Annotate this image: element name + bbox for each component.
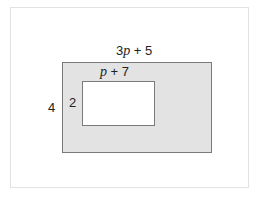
inner-width-label: p + 7 <box>100 65 129 79</box>
inner-height-label: 2 <box>69 96 76 110</box>
outer-height-label: 4 <box>48 101 55 115</box>
inner-rectangle <box>82 81 155 126</box>
outer-width-label: 3p + 5 <box>116 44 152 58</box>
